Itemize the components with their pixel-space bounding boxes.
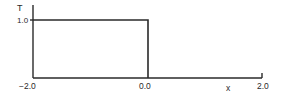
step-function-chart: T 1.0 −2.0 0.0 x 2.0 bbox=[0, 0, 282, 98]
y-tick-label-1: 1.0 bbox=[17, 16, 29, 25]
x-axis-title: x bbox=[226, 83, 231, 93]
step-series-line bbox=[33, 20, 148, 78]
x-tick-label-mid: 0.0 bbox=[139, 81, 151, 91]
x-tick-label-max: 2.0 bbox=[257, 81, 269, 91]
x-tick-label-min: −2.0 bbox=[19, 81, 36, 91]
y-axis-title: T bbox=[17, 3, 23, 13]
